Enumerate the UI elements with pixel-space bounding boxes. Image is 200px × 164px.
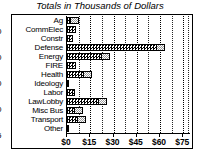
plot-area <box>66 16 190 133</box>
bar-row <box>67 124 190 133</box>
bar-row <box>67 25 190 34</box>
x-tick-label: $45 <box>129 137 143 147</box>
x-tick-label: $0 <box>61 137 70 147</box>
bar <box>67 71 92 78</box>
bar-end-cap <box>156 45 164 50</box>
clipped-digit: 0 <box>0 79 1 88</box>
bar <box>67 98 107 105</box>
bar <box>67 89 75 96</box>
bar <box>67 116 86 123</box>
bar <box>67 17 79 24</box>
category-label: FIRE <box>13 61 65 70</box>
bar-end-cap <box>98 99 106 104</box>
category-label: CommElec <box>13 25 65 34</box>
clipped-neighbor-digits: 00005 <box>0 18 9 148</box>
bar <box>67 44 165 51</box>
bar <box>67 107 83 114</box>
x-tick-label: $15 <box>82 137 96 147</box>
category-label: Defense <box>13 43 65 52</box>
chart-title: Totals in Thousands of Dollars <box>0 0 200 12</box>
clipped-digit: 5 <box>0 131 1 140</box>
clipped-digit: 0 <box>0 27 1 36</box>
bar <box>67 80 69 87</box>
category-label: Ag <box>13 16 65 25</box>
bar-end-cap <box>83 72 91 77</box>
category-label: Other <box>13 124 65 133</box>
category-label: Labor <box>13 88 65 97</box>
bar-end-cap <box>101 54 109 59</box>
bar-row <box>67 70 190 79</box>
bar-row <box>67 34 190 43</box>
bar <box>67 35 73 42</box>
category-label: Energy <box>13 52 65 61</box>
category-label: Ideology <box>13 79 65 88</box>
bar-chart: Totals in Thousands of Dollars 00005 AgC… <box>0 0 200 164</box>
x-axis-labels: $0$15$30$45$60$75 <box>56 137 200 149</box>
bar-row <box>67 115 190 124</box>
category-label: Misc Bus <box>13 106 65 115</box>
bar <box>67 53 110 60</box>
bar-row <box>67 16 190 25</box>
x-tick-label: $30 <box>105 137 119 147</box>
clipped-digit: 0 <box>0 53 1 62</box>
bar-row <box>67 61 190 70</box>
category-label: Constr <box>13 34 65 43</box>
bar-end-cap <box>74 108 82 113</box>
bar-row <box>67 79 190 88</box>
bar-row <box>67 88 190 97</box>
category-label: LawLobby <box>13 97 65 106</box>
x-tick-label: $60 <box>152 137 166 147</box>
category-label: Transport <box>13 115 65 124</box>
bar-row <box>67 106 190 115</box>
bar-series <box>67 16 190 133</box>
category-label: Health <box>13 70 65 79</box>
clipped-digit: 0 <box>0 105 1 114</box>
bar-row <box>67 97 190 106</box>
category-axis: AgCommElecConstrDefenseEnergyFIREHealthI… <box>13 16 65 133</box>
bar-row <box>67 52 190 61</box>
x-tick-label: $75 <box>175 137 189 147</box>
bar-end-cap <box>77 117 85 122</box>
bar <box>67 125 69 132</box>
bar <box>67 62 76 69</box>
bar-row <box>67 43 190 52</box>
bar <box>67 26 76 33</box>
bar-end-cap <box>70 18 78 23</box>
